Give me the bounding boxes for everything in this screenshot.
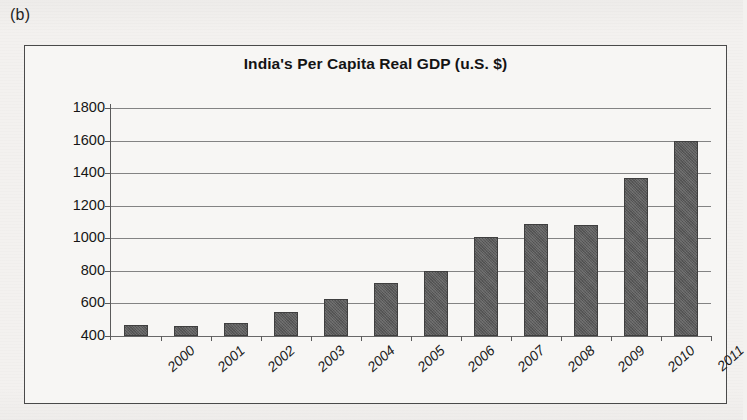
y-axis-tick [105, 206, 111, 207]
bar-2002 [224, 323, 248, 336]
y-axis-tick [105, 303, 111, 304]
x-axis-tick-label: 2005 [414, 342, 448, 375]
bar-2006 [424, 271, 448, 336]
x-axis-tick-label: 2001 [214, 342, 248, 375]
x-axis-tick-label: 2002 [264, 342, 298, 375]
y-axis-tick-label: 1800 [59, 99, 105, 115]
y-axis-tick [105, 238, 111, 239]
x-axis-tick-label: 2009 [614, 342, 648, 375]
bar-2011 [674, 141, 698, 336]
y-axis-tick-label: 1000 [59, 229, 105, 245]
gridline [111, 303, 711, 304]
x-axis-tick [711, 336, 712, 341]
y-axis-tick-label: 800 [59, 262, 105, 278]
y-axis-tick [105, 271, 111, 272]
bar-2010 [624, 178, 648, 336]
x-axis-tick-label: 2011 [714, 342, 747, 374]
y-axis-tick-label: 1600 [59, 132, 105, 148]
gridline [111, 238, 711, 239]
y-axis-tick [105, 141, 111, 142]
bar-2009 [574, 225, 598, 336]
y-axis-tick [105, 173, 111, 174]
bar-2008 [524, 224, 548, 336]
y-axis-tick-label: 1400 [59, 164, 105, 180]
chart-frame: India's Per Capita Real GDP (u.S. $) 180… [24, 45, 727, 404]
bar-2004 [324, 299, 348, 336]
y-axis-tick-label: 1200 [59, 197, 105, 213]
bar-2000 [124, 325, 148, 336]
bar-2005 [374, 283, 398, 336]
bar-2001 [174, 326, 198, 336]
gridline [111, 206, 711, 207]
y-axis-labels: 1800 1600 1400 1200 1000 800 600 400 [47, 108, 105, 336]
x-axis-tick-label: 2010 [664, 342, 698, 375]
x-axis-tick-label: 2004 [364, 342, 398, 375]
gridline [111, 271, 711, 272]
x-axis-tick-label: 2007 [514, 342, 548, 375]
x-axis-tick-label: 2003 [314, 342, 348, 375]
plot-area [111, 108, 711, 336]
bar-2003 [274, 312, 298, 336]
x-axis-tick-label: 2008 [564, 342, 598, 375]
x-axis-tick-label: 2006 [464, 342, 498, 375]
panel-label: (b) [10, 6, 30, 24]
gridline [111, 141, 711, 142]
y-axis-line [110, 104, 111, 340]
y-axis-tick [105, 336, 111, 337]
x-axis-tick-label: 2000 [164, 342, 198, 375]
y-axis-tick [105, 108, 111, 109]
y-axis-tick-label: 600 [59, 294, 105, 310]
bar-2007 [474, 237, 498, 336]
gridline [111, 173, 711, 174]
y-axis-tick-label: 400 [59, 327, 105, 343]
gridline [111, 108, 711, 109]
x-axis-labels: 2000200120022003200420052006200720082009… [111, 338, 711, 394]
chart-title: India's Per Capita Real GDP (u.S. $) [25, 55, 726, 73]
